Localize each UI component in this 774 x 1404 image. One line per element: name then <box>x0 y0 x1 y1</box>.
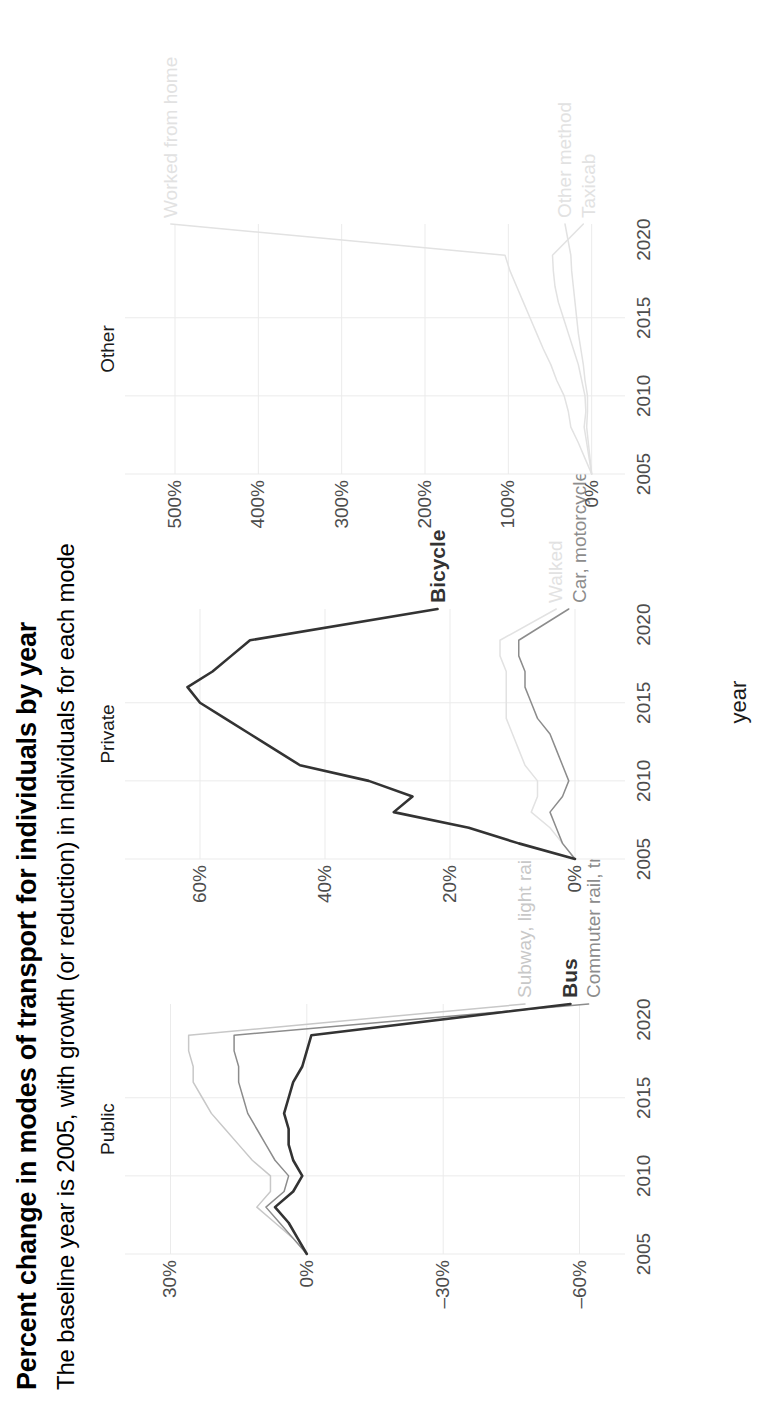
facet-panel: 60%40%20%0%2005201020152020BicycleWalked… <box>125 609 625 859</box>
series-end-label: Taxicab <box>578 154 600 224</box>
y-axis-tick-label: 400% <box>247 474 269 529</box>
x-axis-tick-label: 2010 <box>625 760 655 802</box>
facet-public: Public30%0%–30%–60%2005201020152020Subwa… <box>95 1004 715 1254</box>
series-line <box>171 224 592 474</box>
series-line <box>553 224 592 474</box>
series-end-label: Worked from home <box>160 57 182 224</box>
chart-figure: Percent change in modes of transport for… <box>0 0 774 1404</box>
y-axis-tick-label: 500% <box>164 474 186 529</box>
series-line <box>565 224 592 474</box>
x-axis-tick-label: 2005 <box>625 838 655 880</box>
facet-panel: 30%0%–30%–60%2005201020152020Subway, lig… <box>125 1004 625 1254</box>
y-axis-tick-label: –30% <box>432 1254 454 1309</box>
y-axis-tick-label: 0% <box>564 859 586 892</box>
series-end-label: Subway, light rail <box>514 856 536 1004</box>
x-axis-tick-label: 2005 <box>625 1233 655 1275</box>
y-axis-tick-label: 40% <box>314 859 336 903</box>
y-axis-tick-label: 20% <box>439 859 461 903</box>
x-axis-tick-label: 2015 <box>625 1077 655 1119</box>
y-axis-tick-label: 300% <box>331 474 353 529</box>
x-axis-tick-label: 2010 <box>625 1155 655 1197</box>
x-axis-tick-label: 2005 <box>625 453 655 495</box>
facet-strip-label: Public <box>95 1004 121 1254</box>
series-end-label: Walked <box>545 540 567 609</box>
x-axis-title: year <box>726 0 752 1404</box>
facet-panel: 500%400%300%200%100%0%2005201020152020Wo… <box>125 224 625 474</box>
series-line <box>500 609 575 859</box>
facet-strip-label: Private <box>95 609 121 859</box>
x-axis-tick-label: 2015 <box>625 297 655 339</box>
facet-private: Private60%40%20%0%2005201020152020Bicycl… <box>95 609 715 859</box>
facet-svg <box>125 224 625 474</box>
chart-title: Percent change in modes of transport for… <box>12 622 43 1390</box>
x-axis-tick-label: 2020 <box>625 218 655 260</box>
series-line <box>519 609 575 859</box>
x-axis-tick-label: 2015 <box>625 682 655 724</box>
chart-subtitle: The baseline year is 2005, with growth (… <box>52 543 80 1390</box>
facet-strip-label: Other <box>95 224 121 474</box>
facet-svg <box>125 609 625 859</box>
plot-area: Public30%0%–30%–60%2005201020152020Subwa… <box>95 0 715 1404</box>
y-axis-tick-label: 0% <box>581 474 603 507</box>
series-line <box>234 1004 589 1254</box>
facet-other: Other500%400%300%200%100%0%2005201020152… <box>95 224 715 474</box>
rotated-figure-wrapper: Percent change in modes of transport for… <box>0 0 774 1404</box>
series-line <box>189 1004 525 1254</box>
y-axis-tick-label: 0% <box>296 1254 318 1287</box>
y-axis-tick-label: 200% <box>414 474 436 529</box>
y-axis-tick-label: 60% <box>189 859 211 903</box>
facet-svg <box>125 1004 625 1254</box>
series-end-label: Other method <box>554 102 576 224</box>
series-end-label: Bus <box>558 958 582 1004</box>
y-axis-tick-label: –60% <box>569 1254 591 1309</box>
series-line <box>188 609 576 859</box>
y-axis-tick-label: 100% <box>497 474 519 529</box>
series-end-label: Bicycle <box>426 529 450 609</box>
x-axis-tick-label: 2020 <box>625 998 655 1040</box>
y-axis-tick-label: 30% <box>159 1254 181 1298</box>
x-axis-tick-label: 2010 <box>625 375 655 417</box>
x-axis-tick-label: 2020 <box>625 603 655 645</box>
series-line <box>275 1004 570 1254</box>
